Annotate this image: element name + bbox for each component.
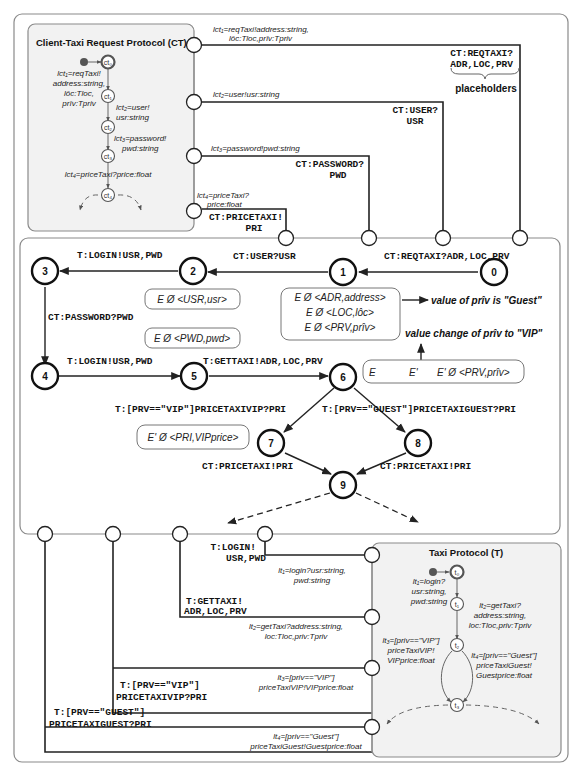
svg-text:t₂: t₂ <box>455 642 460 649</box>
svg-text:PRICETAXIGUEST?PRI: PRICETAXIGUEST?PRI <box>49 719 152 730</box>
svg-text:USR: USR <box>406 116 423 127</box>
svg-text:pwd:string: pwd:string <box>121 144 159 153</box>
transition-1-2: CT:USER?USR <box>233 251 296 262</box>
ct-port-1[interactable] <box>187 38 202 53</box>
initial-dot-icon <box>429 568 437 576</box>
transition-0-1: CT:REQTAXI?ADR,LOC,PRV <box>384 251 510 262</box>
svg-text:E Ø <PWD,pwd>: E Ø <PWD,pwd> <box>154 333 230 344</box>
svg-text:9: 9 <box>340 480 346 491</box>
svg-text:pwd:string: pwd:string <box>410 597 448 606</box>
mediator-port-password[interactable] <box>362 231 377 246</box>
t-label-1: lt₁=login? <box>413 577 446 586</box>
transition-3-4: CT:PASSWORD?PWD <box>48 312 134 323</box>
initial-dot-icon <box>80 58 88 66</box>
ct-port-label-3: lct₃=password!pwd:string <box>211 144 300 153</box>
svg-text:5: 5 <box>191 371 197 382</box>
svg-text:lôc:Tloc,: lôc:Tloc, <box>64 89 94 98</box>
svg-text:2: 2 <box>190 266 196 277</box>
annotation-guest: value of prîv is "Guest" <box>431 295 542 306</box>
t-port-label-1: lt₁=login?usr:string, <box>278 566 346 575</box>
svg-text:ADR,LOC,PRV: ADR,LOC,PRV <box>450 59 513 70</box>
svg-text:E' Ø <PRI,VIPprice>: E' Ø <PRI,VIPprice> <box>148 432 239 443</box>
t-port-3[interactable] <box>365 661 380 676</box>
svg-text:VIPprice:float: VIPprice:float <box>387 656 435 665</box>
svg-text:usr:string,: usr:string, <box>411 587 446 596</box>
mediator-port-user[interactable] <box>436 231 451 246</box>
svg-text:PWD: PWD <box>329 170 346 181</box>
mediator-port-reqtaxi[interactable] <box>513 231 528 246</box>
transition-2-3: T:LOGIN!USR,PWD <box>77 250 163 261</box>
wire-label-password: CT:PASSWORD? <box>296 159 365 170</box>
svg-text:USR,PWD: USR,PWD <box>226 553 266 564</box>
t-port-4[interactable] <box>365 720 380 735</box>
svg-text:ct₁: ct₁ <box>104 93 112 100</box>
wire-label-vip: T:[PRV=="VIP"] <box>120 680 200 691</box>
t-port-1[interactable] <box>365 548 380 563</box>
svg-text:4: 4 <box>42 371 48 382</box>
svg-text:lôc:Tloc,prîv:Tpriv: lôc:Tloc,prîv:Tpriv <box>229 34 293 43</box>
svg-text:loc:Tloc,priv:Tpriv: loc:Tloc,priv:Tpriv <box>469 621 533 630</box>
wire-label-reqtaxi: CT:REQTAXI? <box>450 48 513 59</box>
wire-label-guest: T:[PRV=="GUEST"] <box>54 707 145 718</box>
svg-text:7: 7 <box>268 438 274 449</box>
ct-label-1: lct₁=reqTaxi! <box>57 69 101 78</box>
svg-text:ct₂: ct₂ <box>104 124 112 131</box>
ct-port-3[interactable] <box>187 149 202 164</box>
mediator-port-guest[interactable] <box>38 527 53 542</box>
svg-text:E': E' <box>409 367 419 378</box>
svg-text:ct₀: ct₀ <box>104 59 112 66</box>
t-label-2: lt₂=getTaxi? <box>479 601 521 610</box>
transition-6-8: T:[PRV=="GUEST"]PRICETAXIGUEST?PRI <box>322 404 516 415</box>
svg-text:1: 1 <box>340 267 346 278</box>
svg-text:t₁: t₁ <box>455 601 460 608</box>
svg-text:usr:string: usr:string <box>116 113 149 122</box>
placeholders-label: placeholders <box>455 83 517 94</box>
svg-text:6: 6 <box>340 372 346 383</box>
svg-text:address:string,: address:string, <box>53 79 105 88</box>
svg-text:priceTaxiGuest!Guestprice:floa: priceTaxiGuest!Guestprice:float <box>249 742 362 751</box>
wire-label-login: T:LOGIN! <box>210 542 256 553</box>
svg-text:3: 3 <box>42 266 48 277</box>
ct-port-label-1: lct₁=reqTaxi!address:string, <box>213 25 309 34</box>
svg-text:loc:Tloc,priv:Tpriv: loc:Tloc,priv:Tpriv <box>265 632 329 641</box>
wire-label-pricetaxi: CT:PRICETAXI! <box>209 212 283 223</box>
taxi-protocol-panel: Taxi Protocol (T) t₀ t₁ t₂ t₃ lt₁=login?… <box>372 543 561 757</box>
transition-4-5: T:LOGIN!USR,PWD <box>67 356 153 367</box>
mediator-port-pricetaxi[interactable] <box>279 231 294 246</box>
svg-text:prîv:Tpriv: prîv:Tpriv <box>61 99 96 108</box>
ct-port-2[interactable] <box>187 95 202 110</box>
svg-text:t₀: t₀ <box>455 569 460 576</box>
ct-label-2: lct₂=user! <box>116 103 150 112</box>
svg-text:priceTaxiVIP!: priceTaxiVIP! <box>387 646 436 655</box>
transition-6-7: T:[PRV=="VIP"]PRICETAXIVIP?PRI <box>115 404 286 415</box>
svg-text:Guestprice:float: Guestprice:float <box>476 671 533 680</box>
svg-text:price:float: price:float <box>206 200 242 209</box>
svg-text:priceTaxiGuest!: priceTaxiGuest! <box>475 661 532 670</box>
svg-text:pwd:string: pwd:string <box>293 576 331 585</box>
annotation-vip: value change of prîv to "VIP" <box>405 328 543 339</box>
mediator-port-vip[interactable] <box>106 527 121 542</box>
ct-port-label-4: lct₄=priceTaxi? <box>197 191 250 200</box>
svg-text:address:string,: address:string, <box>474 611 526 620</box>
transition-5-6: T:GETTAXI!ADR,LOC,PRV <box>203 356 323 367</box>
transition-8-9: CT:PRICETAXI!PRI <box>380 461 471 472</box>
svg-text:t₃: t₃ <box>455 702 460 709</box>
svg-text:8: 8 <box>415 438 421 449</box>
svg-text:E' Ø <PRV,prîv>: E' Ø <PRV,prîv> <box>437 367 510 378</box>
svg-text:E: E <box>369 367 376 378</box>
client-taxi-protocol-panel: Client-Taxi Request Protocol (CT) ct₀ ct… <box>28 24 194 231</box>
client-protocol-title: Client-Taxi Request Protocol (CT) <box>36 37 187 48</box>
mediator-port-login[interactable] <box>258 527 273 542</box>
t-port-2[interactable] <box>365 610 380 625</box>
ct-port-4[interactable] <box>187 204 202 219</box>
mediator-port-gettaxi[interactable] <box>173 527 188 542</box>
svg-text:E Ø <LOC,lôc>: E Ø <LOC,lôc> <box>306 307 374 318</box>
svg-text:E Ø <ADR,address>: E Ø <ADR,address> <box>294 292 385 303</box>
svg-text:PRI: PRI <box>245 223 262 234</box>
ct-label-4: lct₄=priceTaxi?price:float <box>65 170 153 179</box>
t-port-label-4: lt₄=[priv=="Guest"] <box>273 732 339 741</box>
svg-text:E Ø <PRV,prîv>: E Ø <PRV,prîv> <box>305 322 376 333</box>
svg-text:E Ø <USR,usr>: E Ø <USR,usr> <box>157 294 227 305</box>
ct-port-label-2: lct₂=user!usr:string <box>213 90 280 99</box>
svg-text:PRICETAXIVIP?PRI: PRICETAXIVIP?PRI <box>116 692 207 703</box>
